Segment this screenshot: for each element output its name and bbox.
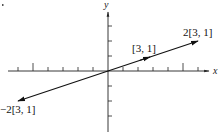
label-v1: [3, 1] (132, 42, 156, 54)
stray-dot (2, 4, 4, 6)
vector-neg2x (18, 71, 108, 101)
label-v2: 2[3, 1] (183, 26, 212, 38)
vector-1x-arrowhead (140, 57, 150, 60)
vector-diagram: [3, 1] 2[3, 1] −2[3, 1] x y (0, 0, 219, 132)
x-axis-label: x (212, 65, 218, 76)
label-v3: −2[3, 1] (0, 103, 36, 115)
y-axis-label: y (103, 0, 109, 10)
